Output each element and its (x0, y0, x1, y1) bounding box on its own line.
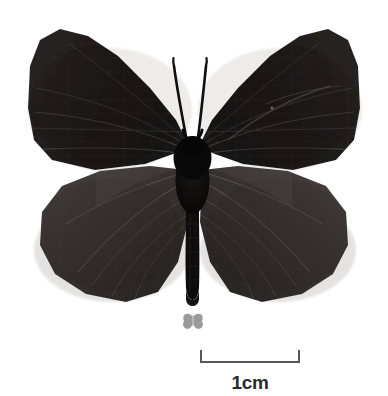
scale-bar-label: 1cm (190, 371, 310, 395)
scale-bar: 1cm (190, 344, 310, 396)
specimen-image: 1cm (0, 0, 388, 396)
butterfly-size-icon-glyph (180, 312, 206, 334)
butterfly-illustration (0, 0, 388, 340)
scale-bar-graphic (190, 344, 310, 370)
butterfly-size-icon (180, 312, 206, 334)
butterfly-specimen-figure (0, 0, 388, 340)
